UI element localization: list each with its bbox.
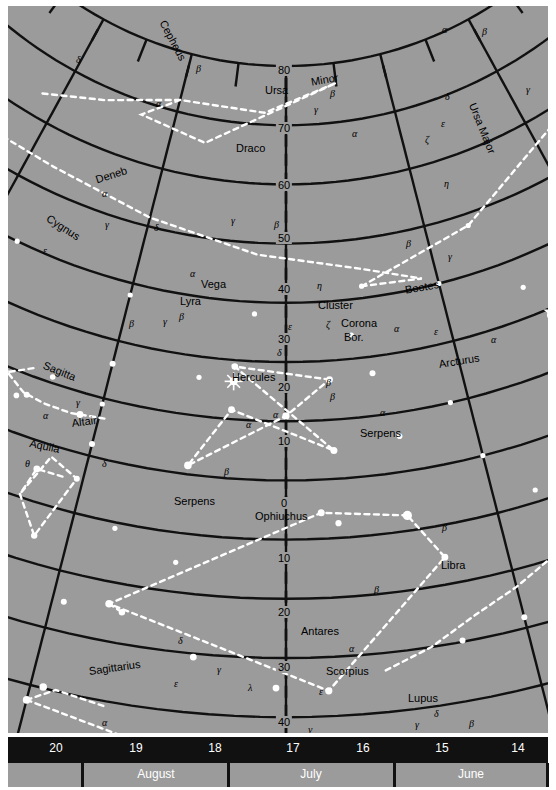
hour-label: 15 [435, 741, 448, 755]
month-divider [81, 763, 84, 787]
month-label: July [300, 767, 321, 781]
hour-label: 19 [129, 741, 142, 755]
right-ascension-scale: 20191817161514 [8, 737, 548, 763]
hour-label: 20 [49, 741, 62, 755]
hour-label: 17 [286, 741, 299, 755]
month-divider [227, 763, 230, 787]
month-scale: AugustJulyJune [8, 763, 548, 787]
sky-map[interactable]: 8070605040302010010203040CepheusDracoUrs… [8, 6, 548, 733]
month-label: August [137, 767, 174, 781]
month-divider [393, 763, 396, 787]
hour-label: 16 [356, 741, 369, 755]
star-chart: 8070605040302010010203040CepheusDracoUrs… [0, 0, 556, 790]
hour-label: 14 [511, 741, 524, 755]
month-label: June [458, 767, 484, 781]
hour-label: 18 [208, 741, 221, 755]
sky-vector-layer [8, 6, 548, 733]
month-divider [546, 763, 549, 787]
